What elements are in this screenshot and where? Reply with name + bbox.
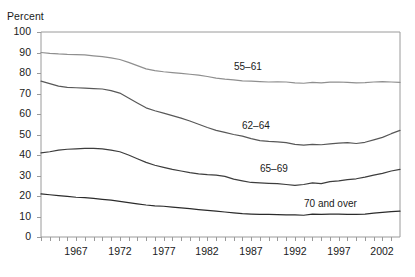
chart-plot-area <box>0 0 415 277</box>
y-axis-tick-label: 20 <box>5 189 31 201</box>
series-label: 62–64 <box>242 120 270 131</box>
series-line <box>41 148 400 185</box>
chart-container: Percent 10090807060504030201001967197219… <box>0 0 415 277</box>
y-axis-tick-label: 70 <box>5 87 31 99</box>
series-label: 65–69 <box>260 163 288 174</box>
x-axis-tick-label: 1972 <box>100 245 140 257</box>
y-axis-tick-label: 50 <box>5 128 31 140</box>
x-axis-tick-label: 2002 <box>362 245 402 257</box>
y-axis-tick-label: 10 <box>5 210 31 222</box>
x-axis-tick-label: 1987 <box>231 245 271 257</box>
y-axis-tick-label: 40 <box>5 148 31 160</box>
y-axis-tick-label: 60 <box>5 107 31 119</box>
x-axis-tick-label: 1967 <box>56 245 96 257</box>
x-axis-tick-label: 1992 <box>275 245 315 257</box>
x-axis-tick-label: 1997 <box>319 245 359 257</box>
y-axis-tick-label: 90 <box>5 46 31 58</box>
series-line <box>41 81 400 145</box>
x-axis-tick-label: 1982 <box>187 245 227 257</box>
y-axis-tick-label: 30 <box>5 169 31 181</box>
series-label: 70 and over <box>304 198 357 209</box>
series-label: 55–61 <box>234 61 262 72</box>
x-axis-tick-label: 1977 <box>144 245 184 257</box>
y-axis-tick-label: 0 <box>5 230 31 242</box>
y-axis-tick-label: 100 <box>5 25 31 37</box>
series-line <box>41 53 400 84</box>
y-axis-tick-label: 80 <box>5 66 31 78</box>
